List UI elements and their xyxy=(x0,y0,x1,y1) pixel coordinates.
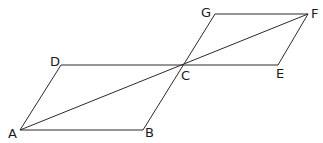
label-a: A xyxy=(8,126,17,141)
segment-bg xyxy=(143,14,215,130)
label-g: G xyxy=(201,5,211,20)
label-c: C xyxy=(181,68,190,83)
geometry-diagram: A B C D E F G xyxy=(0,0,323,143)
segment-ad xyxy=(20,65,61,130)
label-f: F xyxy=(311,6,318,21)
label-e: E xyxy=(276,66,284,81)
label-d: D xyxy=(50,54,60,69)
segment-af xyxy=(20,14,308,130)
segment-fe xyxy=(278,14,308,65)
label-b: B xyxy=(145,125,154,140)
